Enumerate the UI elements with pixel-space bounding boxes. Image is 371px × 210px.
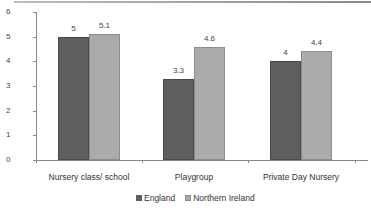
data-label: 4.6 (194, 34, 225, 43)
data-label: 5 (58, 24, 89, 33)
data-label: 3.3 (163, 66, 194, 75)
y-tick-label: 4 (6, 57, 30, 65)
y-tick-mark (33, 135, 36, 136)
y-tick-mark (33, 111, 36, 112)
category-label-private-day-nursery: Private Day Nursery (246, 172, 356, 182)
x-tick-mark (355, 160, 356, 163)
legend-item-england: England (136, 193, 175, 203)
y-tick-label: 2 (6, 107, 30, 115)
y-tick-label: 0 (6, 156, 30, 164)
category-label-playgroup: Playgroup (139, 172, 249, 182)
y-tick-label: 5 (6, 33, 30, 41)
bar-northern-ireland-0 (89, 34, 120, 160)
bar-northern-ireland-1 (194, 47, 225, 160)
x-tick-mark (36, 160, 37, 163)
x-tick-mark (142, 160, 143, 163)
legend-swatch-northern-ireland (185, 195, 191, 201)
legend: England Northern Ireland (136, 193, 255, 203)
y-tick-label: 1 (6, 131, 30, 139)
legend-label-england: England (144, 193, 175, 203)
y-tick-mark (33, 37, 36, 38)
y-tick-label: 3 (6, 82, 30, 90)
y-tick-label: 6 (6, 8, 30, 16)
legend-label-northern-ireland: Northern Ireland (193, 193, 254, 203)
y-tick-mark (33, 86, 36, 87)
data-label: 5.1 (89, 21, 120, 30)
y-axis (36, 12, 37, 161)
bar-northern-ireland-2 (301, 51, 332, 160)
category-label-nursery: Nursery class/ school (34, 172, 144, 182)
legend-swatch-england (136, 195, 142, 201)
data-label: 4 (270, 48, 301, 57)
bar-england-1 (163, 79, 194, 160)
data-label: 4.4 (301, 38, 332, 47)
legend-item-northern-ireland: Northern Ireland (185, 193, 254, 203)
y-tick-mark (33, 12, 36, 13)
x-tick-mark (248, 160, 249, 163)
bar-england-2 (270, 61, 301, 160)
x-axis (34, 160, 368, 161)
bar-england-0 (58, 37, 89, 160)
y-tick-mark (33, 61, 36, 62)
bar-chart: 0123456 Nursery class/ school Playgroup … (0, 0, 371, 210)
